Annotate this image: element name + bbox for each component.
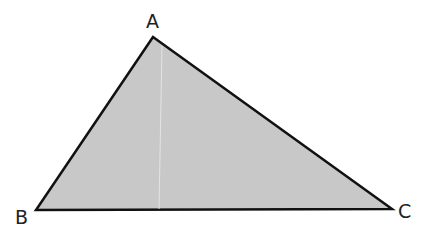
vertex-label-c: C bbox=[398, 200, 411, 222]
triangle-abc bbox=[36, 37, 392, 210]
triangle-diagram: A B C bbox=[0, 0, 428, 231]
vertex-label-a: A bbox=[146, 10, 159, 32]
vertex-label-b: B bbox=[15, 206, 28, 228]
